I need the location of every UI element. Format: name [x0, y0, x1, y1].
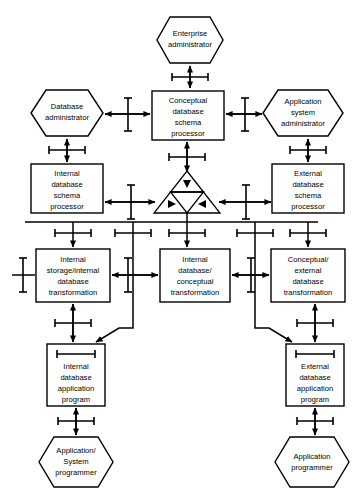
interface-storage-internal-conceptual — [112, 258, 158, 292]
enterprise-administrator-label-line1: Enterprise — [173, 29, 208, 38]
node-conceptual-external-database-transformation[interactable]: Conceptual/ external database transforma… — [271, 249, 345, 302]
node-internal-database-schema-processor[interactable]: Internal database schema processor — [31, 164, 103, 213]
external-app-program-label-line3: application — [297, 384, 333, 393]
internal-processor-label-line2: database — [51, 180, 82, 189]
internal-conceptual-label-line3: conceptual — [177, 277, 214, 286]
conceptual-external-label-line4: transformation — [284, 288, 333, 297]
interface-internal-processor-store — [105, 185, 155, 219]
internal-conceptual-label-line1: Internal — [182, 255, 208, 264]
node-database-store[interactable] — [154, 171, 220, 213]
data-bus-line — [25, 213, 326, 247]
internal-app-program-label-line4: program — [62, 395, 90, 404]
conceptual-processor-label-line2: database — [172, 107, 203, 116]
node-enterprise-administrator[interactable]: Enterprise administrator — [157, 17, 223, 63]
interface-conceptual-external-app-program — [297, 304, 333, 342]
external-processor-label-line3: schema — [295, 191, 322, 200]
interface-appadmin-conceptual — [226, 98, 262, 131]
enterprise-administrator-label-line2: administrator — [168, 40, 212, 49]
node-internal-storage-internal-database-transformation[interactable]: Internal storage/internal database trans… — [36, 249, 110, 302]
interface-dbadmin-internal-processor — [49, 139, 85, 162]
storage-transform-label-line4: transformation — [49, 288, 98, 297]
internal-processor-label-line1: Internal — [54, 169, 80, 178]
interface-internal-storage-left-stub — [12, 258, 35, 292]
storage-transform-label-line3: database — [57, 277, 88, 286]
node-application-programmer[interactable]: Application programmer — [275, 437, 349, 487]
node-external-database-schema-processor[interactable]: External database schema processor — [272, 164, 344, 213]
external-app-program-label-line4: program — [301, 395, 329, 404]
conceptual-external-label-line3: database — [292, 277, 323, 286]
application-system-programmer-label-line1: Application/ — [56, 446, 96, 455]
interface-storage-transform-app-program — [55, 304, 91, 342]
internal-conceptual-label-line4: transformation — [171, 288, 220, 297]
internal-processor-label-line4: processor — [50, 202, 84, 211]
conceptual-processor-label-line1: Conceptual — [169, 96, 208, 105]
interface-external-app-program-appprog — [297, 408, 333, 435]
node-database-administrator[interactable]: Database administrator — [31, 90, 103, 136]
conceptual-processor-label-line3: schema — [175, 118, 202, 127]
external-processor-label-line4: processor — [291, 202, 325, 211]
external-app-program-label-line2: database — [299, 373, 330, 382]
external-processor-label-line1: External — [294, 169, 322, 178]
external-app-program-label-line1: External — [301, 362, 329, 371]
storage-transform-label-line1: Internal — [60, 255, 86, 264]
node-internal-database-application-program[interactable]: Internal database application program — [47, 344, 105, 406]
application-system-programmer-label-line2: System — [63, 457, 88, 466]
node-internal-database-conceptual-transformation[interactable]: Internal database/ conceptual transforma… — [160, 249, 230, 302]
internal-app-program-label-line3: application — [58, 384, 94, 393]
conceptual-external-label-line1: Conceptual/ — [288, 255, 329, 264]
internal-app-program-label-line2: database — [60, 373, 91, 382]
interface-external-processor-store — [219, 185, 271, 219]
database-administrator-label-line2: administrator — [45, 113, 89, 122]
conceptual-external-label-line2: external — [294, 266, 321, 275]
storage-transform-label-line2: storage/internal — [47, 266, 100, 275]
node-application-system-administrator[interactable]: Application system administrator — [263, 90, 343, 136]
node-external-database-application-program[interactable]: External database application program — [286, 344, 344, 406]
conceptual-processor-label-line4: processor — [171, 129, 205, 138]
architecture-diagram: Enterprise administrator Database admini… — [0, 0, 361, 497]
node-application-system-programmer[interactable]: Application/ System programmer — [39, 437, 113, 487]
app-system-admin-label-line1: Application — [284, 97, 321, 106]
node-conceptual-database-schema-processor[interactable]: Conceptual database schema processor — [152, 91, 224, 140]
internal-processor-label-line3: schema — [54, 191, 81, 200]
interface-enterprise-admin-conceptual — [172, 66, 208, 88]
application-programmer-label-line2: programmer — [291, 463, 333, 472]
interface-dbadmin-conceptual — [105, 98, 150, 131]
internal-conceptual-label-line2: database/ — [178, 266, 212, 275]
app-system-admin-label-line3: administrator — [281, 119, 325, 128]
external-processor-label-line2: database — [292, 180, 323, 189]
app-system-admin-label-line2: system — [291, 108, 315, 117]
interface-appadmin-external-processor — [290, 139, 326, 162]
interface-internal-app-program-sysprog — [58, 408, 94, 435]
database-administrator-label-line1: Database — [51, 102, 84, 111]
application-system-programmer-label-line3: programmer — [55, 468, 97, 477]
internal-app-program-label-line1: Internal — [63, 362, 89, 371]
application-programmer-label-line1: Application — [293, 452, 330, 461]
interface-conceptual-processor-store — [169, 142, 205, 172]
interface-internal-conceptual-external — [232, 258, 269, 292]
